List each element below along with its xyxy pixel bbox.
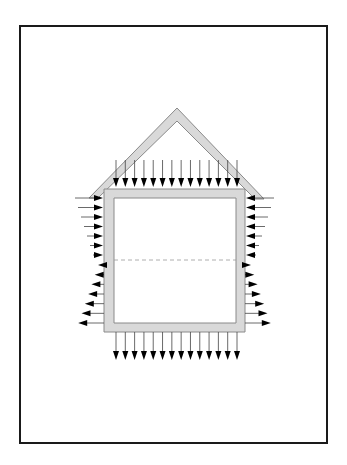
arrow-head-icon [91,281,100,287]
wind-load-diagram [0,0,347,465]
arrow-head-icon [246,252,255,258]
arrow-head-icon [160,351,166,360]
arrow-head-icon [259,310,268,316]
arrow-head-icon [215,178,221,187]
arrow-head-icon [246,224,255,230]
arrow-head-icon [132,351,138,360]
arrow-head-icon [122,178,128,187]
arrow-head-icon [141,351,147,360]
arrow-head-icon [246,233,255,239]
arrow-head-icon [94,214,103,220]
arrow-head-icon [255,301,264,307]
arrow-head-icon [94,224,103,230]
arrow-head-icon [206,178,212,187]
arrow-head-icon [94,243,103,249]
arrow-head-icon [234,351,240,360]
arrow-head-icon [249,281,258,287]
arrow-head-icon [225,351,231,360]
arrow-head-icon [94,205,103,211]
arrow-head-icon [122,351,128,360]
arrow-head-icon [246,205,255,211]
arrow-head-icon [178,351,184,360]
arrow-head-icon [262,320,271,326]
arrow-head-icon [252,291,261,297]
arrow-head-icon [150,351,156,360]
arrow-head-icon [245,272,254,278]
arrow-head-icon [141,178,147,187]
arrow-head-icon [242,262,251,268]
diagram-frame [20,26,327,443]
arrow-head-icon [197,351,203,360]
arrow-head-icon [113,351,119,360]
arrow-head-icon [98,262,107,268]
roof [89,108,264,199]
arrow-head-icon [187,178,193,187]
arrow-head-icon [169,178,175,187]
arrow-head-icon [246,214,255,220]
arrow-head-icon [82,310,91,316]
arrow-head-icon [197,178,203,187]
arrow-head-icon [246,195,255,201]
arrow-head-icon [94,252,103,258]
arrow-head-icon [95,272,104,278]
arrow-head-icon [150,178,156,187]
house-walls [104,189,245,332]
arrow-head-icon [78,320,87,326]
arrow-head-icon [88,291,97,297]
arrow-head-icon [178,178,184,187]
arrow-head-icon [246,243,255,249]
arrow-head-icon [225,178,231,187]
arrow-head-icon [215,351,221,360]
arrow-head-icon [206,351,212,360]
arrow-head-icon [169,351,175,360]
arrow-head-icon [132,178,138,187]
arrow-head-icon [85,301,94,307]
arrow-head-icon [187,351,193,360]
arrow-head-icon [160,178,166,187]
arrow-head-icon [94,233,103,239]
